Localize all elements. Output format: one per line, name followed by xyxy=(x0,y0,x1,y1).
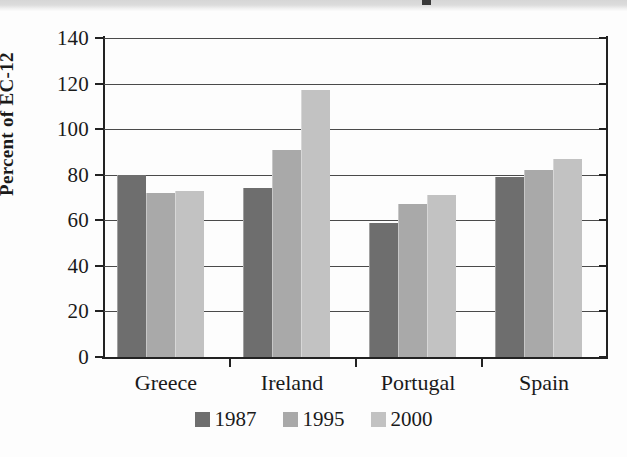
y-axis-tick-right xyxy=(599,174,608,176)
y-axis-tick-label: 40 xyxy=(68,253,89,278)
y-axis-tick-right xyxy=(599,37,608,39)
legend-item: 1987 xyxy=(195,409,257,430)
bar xyxy=(553,159,582,357)
y-axis-tick xyxy=(95,37,104,39)
y-axis-tick xyxy=(95,310,104,312)
bar xyxy=(495,177,524,357)
bar xyxy=(243,188,272,357)
x-axis-tick xyxy=(229,357,231,367)
y-axis-tick-right xyxy=(599,265,608,267)
chart-legend: 198719952000 xyxy=(0,409,627,430)
legend-label: 1995 xyxy=(303,409,345,430)
y-axis-tick xyxy=(95,356,104,358)
y-axis-tick-label: 120 xyxy=(57,71,89,96)
y-axis-tick-label: 20 xyxy=(68,299,89,324)
y-axis-tick-right xyxy=(599,83,608,85)
y-axis-tick xyxy=(95,174,104,176)
y-axis-tick-right xyxy=(599,310,608,312)
x-axis-category-label: Ireland xyxy=(229,370,355,396)
y-axis-tick-right xyxy=(599,128,608,130)
y-axis-tick-right xyxy=(599,356,608,358)
y-axis-tick xyxy=(95,265,104,267)
bar xyxy=(272,150,301,357)
legend-item: 1995 xyxy=(283,409,345,430)
legend-swatch-icon xyxy=(283,412,298,427)
y-axis-tick-label: 0 xyxy=(78,345,89,370)
legend-label: 1987 xyxy=(215,409,257,430)
figure-container: Percent of EC-12 020406080100120140 Gree… xyxy=(0,0,627,457)
plot-area xyxy=(103,38,607,357)
x-axis-tick xyxy=(481,357,483,367)
x-axis-category-label: Portugal xyxy=(355,370,481,396)
legend-swatch-icon xyxy=(371,412,386,427)
y-axis-tick-label: 140 xyxy=(57,26,89,51)
x-axis-category-label: Greece xyxy=(103,370,229,396)
y-axis-tick-label: 100 xyxy=(57,117,89,142)
bar xyxy=(117,175,146,357)
caption-descender-mark xyxy=(422,0,431,5)
bar-group xyxy=(495,38,582,357)
y-axis-tick-labels: 020406080100120140 xyxy=(0,38,95,357)
y-axis-tick-right xyxy=(599,219,608,221)
y-axis-tick xyxy=(95,219,104,221)
y-axis-tick xyxy=(95,128,104,130)
bar-group xyxy=(369,38,456,357)
bar-group xyxy=(243,38,330,357)
legend-swatch-icon xyxy=(195,412,210,427)
bar xyxy=(175,191,204,357)
bar xyxy=(301,90,330,357)
legend-label: 2000 xyxy=(391,409,433,430)
bar-group xyxy=(117,38,204,357)
bar xyxy=(398,204,427,357)
bar xyxy=(369,223,398,357)
legend-item: 2000 xyxy=(371,409,433,430)
page-scan-band xyxy=(0,0,627,11)
y-axis-tick-label: 60 xyxy=(68,208,89,233)
y-axis-tick-label: 80 xyxy=(68,162,89,187)
bar xyxy=(427,195,456,357)
x-axis-tick xyxy=(355,357,357,367)
x-axis-category-label: Spain xyxy=(481,370,607,396)
bar xyxy=(146,193,175,357)
bar xyxy=(524,170,553,357)
y-axis-tick xyxy=(95,83,104,85)
